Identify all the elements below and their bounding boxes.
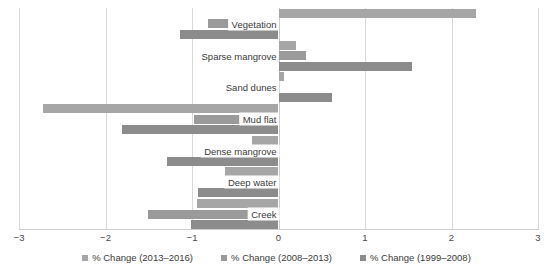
legend-label: % Change (1999–2008) (370, 252, 471, 264)
category-label-creek: Creek (247, 208, 279, 221)
x-axis-tick-labels: −3−2−10123 (19, 232, 538, 248)
legend-label: % Change (2013–2016) (92, 252, 193, 264)
x-axis-line (19, 229, 538, 230)
chart-legend: % Change (2013–2016)% Change (2008–2013)… (0, 252, 553, 264)
category-label-vegetation: Vegetation (228, 17, 280, 30)
bar (167, 157, 279, 166)
x-tick-label: 0 (276, 232, 281, 244)
legend-swatch-icon (221, 255, 227, 261)
bar (279, 93, 333, 102)
bar (279, 62, 412, 71)
plot-area: VegetationSparse mangroveSand dunesMud f… (19, 8, 538, 230)
legend-swatch-icon (82, 255, 88, 261)
x-tick-label: −1 (187, 232, 198, 244)
category-label-mud-flat: Mud flat (239, 113, 280, 126)
x-tick-label: −3 (14, 232, 25, 244)
bar (279, 51, 307, 60)
bar (279, 41, 296, 50)
legend-item[interactable]: % Change (2013–2016) (82, 252, 193, 264)
x-tick-label: 1 (362, 232, 367, 244)
bar (191, 220, 278, 229)
gridline-3 (538, 8, 539, 230)
bar (198, 188, 278, 197)
bar (180, 30, 279, 39)
category-label-deep-water: Deep water (224, 176, 280, 189)
category-label-dense-mangrove: Dense mangrove (200, 144, 279, 157)
legend-label: % Change (2008–2013) (231, 252, 332, 264)
bar-chart: VegetationSparse mangroveSand dunesMud f… (0, 0, 553, 273)
category-label-sand-dunes: Sand dunes (222, 81, 280, 94)
x-tick-label: 2 (449, 232, 454, 244)
legend-item[interactable]: % Change (1999–2008) (360, 252, 471, 264)
bar (279, 9, 476, 18)
x-tick-label: −2 (100, 232, 111, 244)
legend-swatch-icon (360, 255, 366, 261)
legend-item[interactable]: % Change (2008–2013) (221, 252, 332, 264)
bar (122, 125, 279, 134)
x-tick-label: 3 (535, 232, 540, 244)
category-label-sparse-mangrove: Sparse mangrove (198, 49, 280, 62)
